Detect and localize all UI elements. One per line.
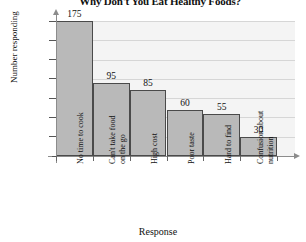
- x-axis-tick: [56, 156, 57, 161]
- bar-value-label: 85: [130, 78, 167, 88]
- x-axis-tick: [240, 156, 241, 161]
- y-tick-mark: [49, 21, 56, 22]
- bar: [130, 90, 167, 156]
- x-axis-tick: [203, 156, 204, 161]
- x-axis-tick: [277, 156, 278, 161]
- bar-value-label: 95: [93, 71, 130, 81]
- y-tick-mark: [49, 78, 56, 79]
- bar-chart: Why Don't You Eat Healthy Foods? Number …: [0, 0, 306, 242]
- x-category-label: Hard to find: [225, 125, 234, 164]
- y-tick-mark: [49, 98, 56, 99]
- bar-value-label: 60: [167, 98, 204, 108]
- x-axis-tick: [130, 156, 131, 161]
- bar: [56, 21, 93, 156]
- y-tick-mark: [49, 136, 56, 137]
- y-tick-mark: [49, 40, 56, 41]
- chart-title: Why Don't You Eat Healthy Foods?: [40, 0, 280, 7]
- x-axis-label: Response: [103, 226, 213, 237]
- x-category-label: Poor taste: [188, 132, 197, 164]
- x-axis-tick: [167, 156, 168, 161]
- bar: [167, 110, 204, 156]
- y-tick-mark: [49, 117, 56, 118]
- x-axis-tick: [93, 156, 94, 161]
- bar-value-label: 55: [203, 102, 240, 112]
- bar: [203, 114, 240, 156]
- y-tick-mark: [49, 59, 56, 60]
- y-axis-line: [56, 14, 57, 163]
- bar-value-label: 175: [56, 9, 93, 19]
- x-category-label: on the go: [119, 134, 128, 164]
- x-category-label: Can't take food: [109, 115, 118, 164]
- x-category-label: nutrition: [267, 136, 276, 164]
- x-category-label: Confusion about: [257, 111, 266, 164]
- x-axis-arrow-icon: [294, 153, 300, 159]
- y-axis-label: Number responding: [9, 0, 19, 102]
- x-category-label: No time to cook: [77, 112, 86, 164]
- x-category-label: High cost: [151, 133, 160, 164]
